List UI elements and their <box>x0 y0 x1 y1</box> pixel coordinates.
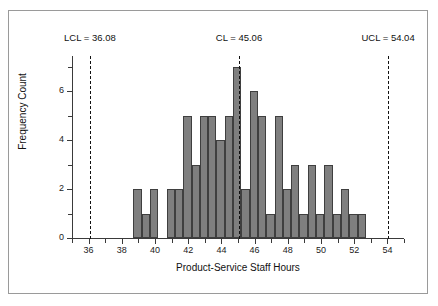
histogram-bar <box>308 165 316 238</box>
x-major-tick <box>122 239 123 244</box>
x-minor-tick <box>205 239 206 243</box>
y-major-tick <box>67 140 72 141</box>
y-minor-tick <box>68 165 72 166</box>
y-tick-label: 2 <box>48 183 64 193</box>
x-axis-title: Product-Service Staff Hours <box>72 262 404 273</box>
y-tick-label: 0 <box>48 232 64 242</box>
x-tick-label: 46 <box>240 245 270 255</box>
histogram-bar <box>200 116 208 238</box>
y-tick-label: 6 <box>48 85 64 95</box>
x-major-tick <box>188 239 189 244</box>
histogram-bar <box>358 214 366 238</box>
y-minor-tick <box>68 214 72 215</box>
y-major-tick <box>67 91 72 92</box>
x-major-tick <box>255 239 256 244</box>
histogram-bar <box>341 189 349 238</box>
histogram-bar <box>233 67 241 238</box>
x-minor-tick <box>271 239 272 243</box>
x-minor-tick <box>238 239 239 243</box>
histogram-bar <box>349 214 357 238</box>
x-minor-tick <box>138 239 139 243</box>
x-tick-label: 54 <box>372 245 402 255</box>
x-minor-tick <box>338 239 339 243</box>
histogram-bar <box>208 116 216 238</box>
histogram-bar <box>283 189 291 238</box>
histogram-bar <box>167 189 175 238</box>
histogram-figure: 36384042444648505254 0246 LCL = 36.08CL … <box>0 0 438 306</box>
x-tick-label: 50 <box>306 245 336 255</box>
x-major-tick <box>354 239 355 244</box>
x-minor-tick <box>172 239 173 243</box>
histogram-bar <box>324 165 332 238</box>
x-major-tick <box>321 239 322 244</box>
y-minor-tick <box>68 67 72 68</box>
y-minor-tick <box>68 116 72 117</box>
histogram-bar <box>225 116 233 238</box>
y-axis-line <box>72 56 73 239</box>
ucl-line <box>388 56 389 239</box>
histogram-bar <box>175 189 183 238</box>
histogram-bar <box>333 214 341 238</box>
x-minor-tick <box>105 239 106 243</box>
x-tick-label: 52 <box>339 245 369 255</box>
histogram-bar <box>142 214 150 238</box>
cl-line <box>239 56 240 239</box>
x-tick-label: 36 <box>74 245 104 255</box>
histogram-bar <box>150 189 158 238</box>
x-tick-label: 38 <box>107 245 137 255</box>
x-minor-tick <box>304 239 305 243</box>
histogram-bar <box>258 116 266 238</box>
y-major-tick <box>67 238 72 239</box>
ucl-label: UCL = 54.04 <box>343 32 433 43</box>
histogram-bar <box>183 116 191 238</box>
x-major-tick <box>387 239 388 244</box>
x-tick-label: 48 <box>273 245 303 255</box>
y-tick-label: 4 <box>48 134 64 144</box>
x-major-tick <box>288 239 289 244</box>
x-tick-label: 40 <box>140 245 170 255</box>
y-axis-title: Frequency Count <box>17 52 28 172</box>
x-minor-tick <box>371 239 372 243</box>
x-tick-label: 44 <box>206 245 236 255</box>
x-major-tick <box>155 239 156 244</box>
histogram-bar <box>266 214 274 238</box>
histogram-bar <box>241 189 249 238</box>
plot-area: 36384042444648505254 0246 LCL = 36.08CL … <box>0 0 438 306</box>
histogram-bar <box>250 91 258 238</box>
cl-label: CL = 45.06 <box>194 32 284 43</box>
histogram-bar <box>192 165 200 238</box>
x-minor-tick <box>404 239 405 243</box>
histogram-bar <box>133 189 141 238</box>
x-minor-tick <box>72 239 73 243</box>
x-tick-label: 42 <box>173 245 203 255</box>
lcl-label: LCL = 36.08 <box>45 32 135 43</box>
x-major-tick <box>221 239 222 244</box>
x-major-tick <box>89 239 90 244</box>
histogram-bar <box>299 214 307 238</box>
histogram-bar <box>275 116 283 238</box>
y-major-tick <box>67 189 72 190</box>
histogram-bar <box>216 140 224 238</box>
lcl-line <box>90 56 91 239</box>
histogram-bar <box>291 165 299 238</box>
histogram-bar <box>316 214 324 238</box>
